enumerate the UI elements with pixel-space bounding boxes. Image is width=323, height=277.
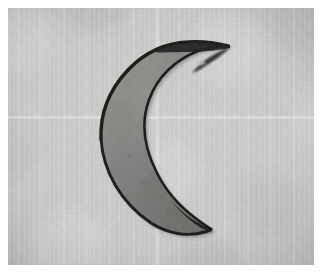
specimen-surface-sheen xyxy=(88,33,248,248)
specimen-body xyxy=(88,33,248,248)
screenshot-root: Photograph of a dark grey crescent-shape… xyxy=(0,0,323,277)
crescent-specimen xyxy=(8,8,314,265)
photograph-frame xyxy=(8,8,314,265)
